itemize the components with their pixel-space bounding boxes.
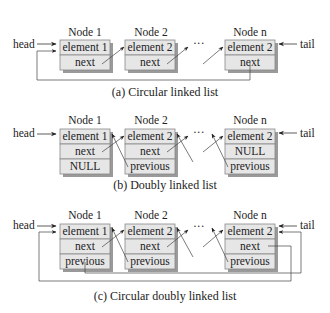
cell-next: next — [75, 240, 96, 252]
cell-next: next — [140, 240, 161, 252]
node-1: Node 1 element 1 next NULL — [60, 114, 113, 177]
node-title: Node 1 — [68, 114, 102, 126]
node-n: Node n element 2 next — [225, 26, 278, 73]
ellipsis: ··· — [193, 220, 205, 232]
diagram-doubly-linked-list: Node 1 element 1 next NULL Node 2 elemen… — [13, 114, 315, 192]
caption: (c) Circular doubly linked list — [94, 289, 237, 303]
node-title: Node 2 — [134, 209, 168, 221]
node-title: Node n — [233, 114, 267, 126]
cell-next: next — [140, 145, 161, 157]
tail-label: tail — [300, 219, 315, 231]
cell-previous: previous — [130, 160, 170, 173]
diagram-circular-linked-list: Node 1 element 1 next Node 2 element 2 n… — [13, 26, 315, 99]
cell-previous: previous — [130, 255, 170, 268]
cell-element: element 1 — [62, 130, 107, 142]
cell-previous: previous — [230, 160, 270, 173]
head-label: head — [13, 127, 35, 139]
head-label: head — [13, 38, 35, 50]
cell-element: element 2 — [127, 130, 172, 142]
tail-label: tail — [300, 38, 315, 50]
node-title: Node n — [233, 26, 267, 38]
cell-element: element 1 — [62, 41, 107, 53]
tail-label: tail — [300, 127, 315, 139]
node-2: Node 2 element 2 next — [125, 26, 178, 73]
node-title: Node 2 — [134, 26, 168, 38]
caption: (a) Circular linked list — [112, 85, 219, 99]
node-1: Node 1 element 1 next — [60, 26, 113, 73]
cell-next: NULL — [235, 145, 266, 157]
cell-element: element 2 — [227, 41, 272, 53]
linked-list-figure: Node 1 element 1 next Node 2 element 2 n… — [0, 0, 330, 313]
next-arrow — [203, 47, 223, 64]
node-title: Node 1 — [68, 209, 102, 221]
head-label: head — [13, 219, 35, 231]
cell-next: next — [140, 56, 161, 68]
node-1: Node 1 element 1 next previous — [60, 209, 113, 272]
cell-element: element 2 — [127, 41, 172, 53]
node-title: Node 2 — [134, 114, 168, 126]
cell-next: next — [75, 56, 96, 68]
cell-element: element 1 — [62, 225, 107, 237]
cell-previous: previous — [230, 255, 270, 268]
node-2: Node 2 element 2 next previous — [125, 114, 178, 177]
node-n: Node n element 2 NULL previous — [225, 114, 278, 177]
node-title: Node 1 — [68, 26, 102, 38]
cell-next: next — [240, 56, 261, 68]
cell-element: element 2 — [127, 225, 172, 237]
node-n: Node n element 2 next previous — [225, 209, 278, 272]
caption: (b) Doubly linked list — [113, 178, 217, 192]
cell-element: element 2 — [227, 225, 272, 237]
cell-next: next — [240, 240, 261, 252]
cell-previous: NULL — [70, 160, 101, 172]
node-title: Node n — [233, 209, 267, 221]
ellipsis: ··· — [193, 126, 205, 138]
ellipsis: ··· — [193, 37, 205, 49]
cell-element: element 2 — [227, 130, 272, 142]
next-arrow — [203, 136, 223, 152]
node-2: Node 2 element 2 next previous — [125, 209, 178, 272]
diagram-circular-doubly-linked-list: Node 1 element 1 next previous Node 2 el… — [13, 209, 315, 303]
cell-next: next — [75, 145, 96, 157]
